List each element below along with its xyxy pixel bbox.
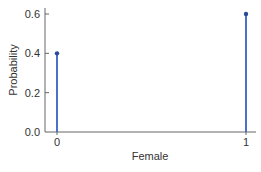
x-axis-title: Female — [132, 150, 169, 162]
stem-marker — [55, 51, 59, 55]
x-ticks: 01 — [54, 132, 249, 148]
x-tick-label: 1 — [243, 136, 249, 148]
y-tick-label: 0.0 — [25, 126, 40, 138]
y-tick-label: 0.6 — [25, 8, 40, 20]
y-axis-title: Probability — [7, 44, 19, 96]
stem-marker — [244, 12, 248, 16]
y-tick-label: 0.4 — [25, 47, 40, 59]
x-tick-label: 0 — [54, 136, 60, 148]
stems — [55, 12, 248, 132]
probability-stem-chart: 0.00.20.40.6 01 Female Probability — [0, 0, 261, 172]
y-tick-label: 0.2 — [25, 87, 40, 99]
